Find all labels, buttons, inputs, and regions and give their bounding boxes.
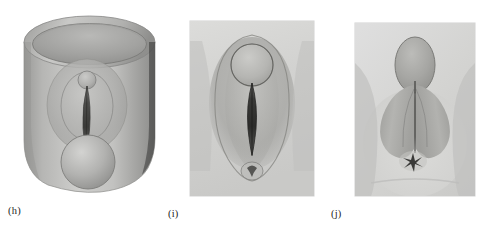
panel-i-artwork <box>190 21 314 196</box>
panel-h-caption: (h) <box>8 205 21 217</box>
lower-sphere <box>61 135 115 189</box>
vessel-rim-inner <box>33 24 147 65</box>
panel-j-artwork <box>355 23 475 196</box>
figure-panel-i <box>190 21 314 196</box>
figure-panel-j <box>355 23 475 196</box>
panel-h-artwork <box>18 8 160 194</box>
panel-j-caption: (j) <box>331 208 342 220</box>
panel-i-caption: (i) <box>168 208 179 220</box>
figure-panel-h <box>18 8 160 194</box>
figure-sheet: (h) <box>0 0 485 237</box>
